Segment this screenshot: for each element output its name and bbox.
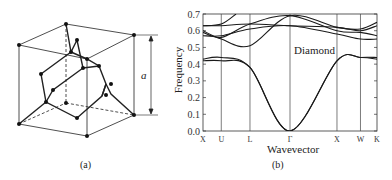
figure-canvas: 0.00.10.20.30.40.50.60.7XULΓXWK	[0, 0, 392, 180]
y-tick-label: 0.7	[188, 9, 201, 20]
y-tick-label: 0.6	[188, 25, 201, 36]
dispersion-plot: 0.00.10.20.30.40.50.60.7XULΓXWK	[188, 9, 381, 145]
x-tick-label: K	[374, 135, 380, 144]
caption-b: (b)	[272, 159, 284, 170]
x-tick-label: X	[200, 135, 206, 144]
y-tick-label: 0.2	[188, 92, 201, 103]
x-axis-label: Wavevector	[267, 143, 319, 155]
diamond-lattice-diagram	[17, 22, 158, 138]
y-tick-label: 0.5	[188, 42, 201, 53]
x-tick-label: X	[334, 135, 340, 144]
dispersion-branch-optical-5	[203, 14, 236, 26]
y-axis-label: Frequency	[172, 40, 184, 100]
y-tick-label: 0.1	[188, 109, 201, 120]
lattice-constant-label: a	[141, 69, 147, 81]
y-tick-label: 0.4	[188, 59, 201, 70]
x-tick-label: U	[218, 135, 224, 144]
caption-a: (a)	[80, 159, 91, 170]
y-tick-label: 0.0	[188, 126, 201, 137]
y-tick-label: 0.3	[188, 75, 201, 86]
x-tick-label: L	[248, 135, 253, 144]
x-tick-label: W	[357, 135, 365, 144]
material-annotation: Diamond	[294, 44, 335, 56]
